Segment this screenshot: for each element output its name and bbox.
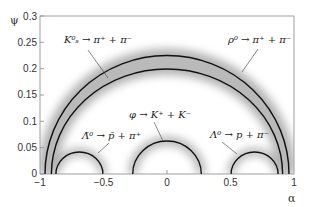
y-tick-0.05: 0.05: [18, 142, 38, 153]
x-tick-0.5: 0.5: [224, 177, 238, 188]
label-rho: ρ⁰ → π⁺ + π⁻: [227, 34, 291, 45]
y-tick-0.1: 0.1: [23, 116, 37, 127]
y-tick-0.2: 0.2: [23, 63, 37, 74]
y-tick-0.25: 0.25: [18, 37, 38, 48]
label-phi: φ → K⁺ + K⁻: [129, 109, 191, 120]
label-lambda: Λ⁰ → p + π⁻: [209, 129, 269, 140]
y-tick-0.3: 0.3: [23, 11, 37, 22]
x-tick-0: 0: [164, 177, 170, 188]
x-tick--1: −1: [34, 177, 46, 188]
label-k0s: K⁰ₛ → π⁺ + π⁻: [63, 34, 132, 45]
x-tick-1: 1: [291, 177, 297, 188]
y-tick-0.15: 0.15: [18, 89, 38, 100]
label-lambdabar: Λ̄⁰ → p̄ + π⁺: [81, 130, 141, 141]
x-tick--0.5: −0.5: [94, 177, 114, 188]
y-axis-label: ψ: [10, 14, 19, 27]
armenteros-plot: 0 0.05 0.1 0.15 0.2 0.25 0.3 −1 −0.5 0 0…: [0, 0, 309, 207]
x-axis-label: α: [288, 192, 296, 205]
